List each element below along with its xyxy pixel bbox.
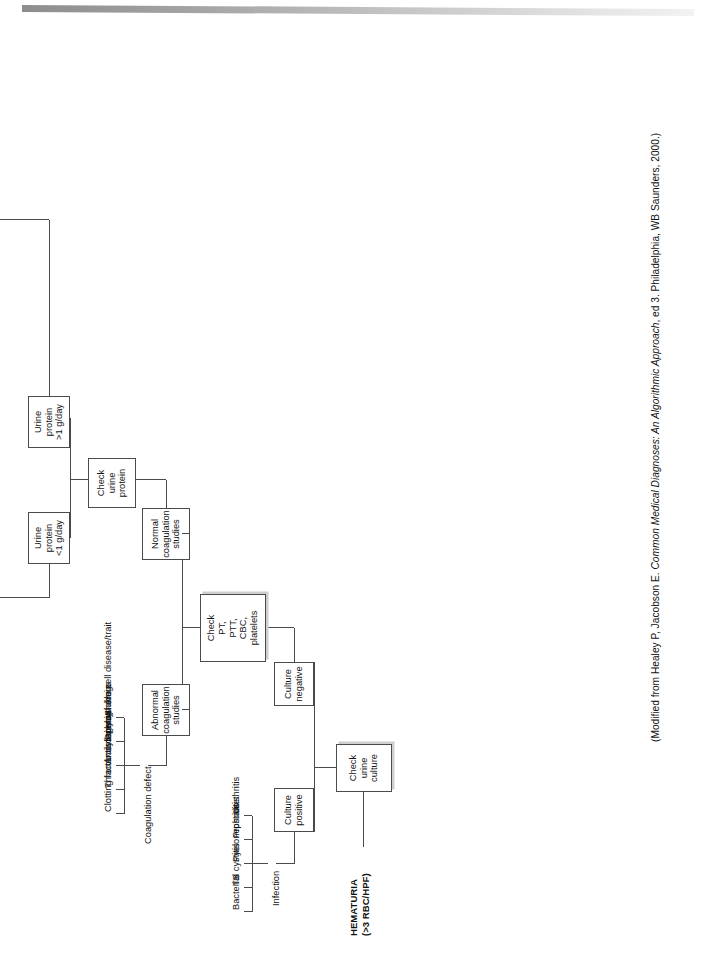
connector-biopsy-up <box>0 219 49 220</box>
connector-norm-coag-down <box>182 533 190 534</box>
tick-coag-0 <box>116 813 124 814</box>
connector-to-check-urine-protein <box>136 479 166 480</box>
box-normal-coagulation-studies[interactable]: Normal coagulation studies <box>142 508 190 560</box>
connector-coag-split-up <box>182 627 200 628</box>
leaf-coag-4: Sickle cell disease/trait <box>104 622 113 716</box>
connector-coagdefect-up <box>124 765 140 766</box>
box-culture-positive[interactable]: Culture positive <box>274 788 314 832</box>
flowchart-canvas: HEMATURIA (>3 RBC/HPF) Check urine cultu… <box>14 12 704 942</box>
tick-coag-2 <box>116 765 124 766</box>
leaf-infection-4: Urethritis <box>232 777 241 814</box>
box-culture-negative[interactable]: Culture negative <box>274 662 314 706</box>
tick-coag-1 <box>116 789 124 790</box>
connector-culture-split-up <box>314 767 336 768</box>
bracket-coagulation-defect <box>124 718 125 814</box>
box-urine-protein-lt1[interactable]: Urine protein <1 g/day <box>28 512 70 564</box>
connector-lt1-up <box>0 597 49 598</box>
tick-coag-4 <box>116 717 124 718</box>
connector-culture-negative-right <box>294 628 295 662</box>
connector-protein-split-up <box>70 479 88 480</box>
box-check-urine-culture[interactable]: Check urine culture <box>336 744 392 792</box>
connector-root <box>363 792 364 847</box>
box-check-urine-protein[interactable]: Check urine protein <box>88 458 136 508</box>
tick-coag-3 <box>116 741 124 742</box>
box-check-pt-ptt-cbc-platelets[interactable]: Check PT, PTT, CBC, platelets <box>200 594 266 662</box>
connector-infection-drop <box>276 863 294 864</box>
tick-infection-3 <box>244 839 252 840</box>
box-abnormal-coagulation-studies[interactable]: Abnormal coagulation studies <box>142 684 190 736</box>
root-label: HEMATURIA (>3 RBC/HPF) <box>348 873 372 936</box>
tick-infection-1 <box>244 887 252 888</box>
source-caption: (Modified from Healey P, Jacobson E. Com… <box>650 133 661 742</box>
connector-lt1-left <box>49 564 50 598</box>
leaf-infection-1: TB <box>232 874 241 886</box>
connector-gt1-to-biopsy <box>49 220 50 396</box>
tick-infection-2 <box>244 863 252 864</box>
connector-abnormal-coag-left <box>166 736 167 766</box>
connector-normal-coag-right <box>166 480 167 508</box>
connector-to-pt-ptt <box>266 627 294 628</box>
tick-infection-0 <box>244 911 252 912</box>
tick-infection-4 <box>244 815 252 816</box>
connector-infection-up <box>252 863 268 864</box>
label-coagulation-defect: Coagulation defect <box>144 766 153 844</box>
connector-abn-coag-down <box>182 709 190 710</box>
box-urine-protein-gt1[interactable]: Urine protein >1 g/day <box>28 396 70 448</box>
bracket-infection <box>252 816 253 912</box>
connector-culture-positive-left <box>294 832 295 864</box>
label-infection: Infection <box>272 871 281 906</box>
